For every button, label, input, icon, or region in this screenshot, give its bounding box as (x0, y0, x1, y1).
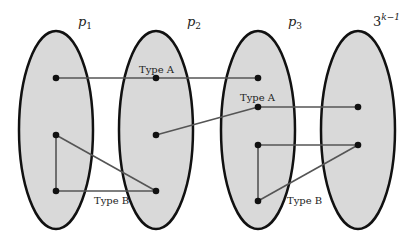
partition-label-p1: p1 (78, 14, 92, 31)
vertex (355, 142, 362, 149)
vertex (153, 132, 160, 139)
partition-label-p2: p2 (187, 14, 201, 31)
vertex (153, 188, 160, 195)
edge-label-type-b-2: Type B (287, 195, 322, 206)
vertex (255, 104, 262, 111)
edge-label-type-a-1: Type A (139, 64, 175, 75)
partition-diagram: p1 p2 p3 3k−1 Type A Type A Type B Type … (0, 0, 415, 244)
partition-label-p4: 3k−1 (373, 12, 400, 29)
vertex (53, 75, 60, 82)
vertex (53, 188, 60, 195)
partition-ellipse-p4 (321, 31, 395, 229)
vertex (355, 104, 362, 111)
partition-ellipse-p1 (19, 31, 93, 229)
vertex (255, 75, 262, 82)
vertex (255, 142, 262, 149)
edge-label-type-a-2: Type A (240, 92, 276, 103)
edge-label-type-b-1: Type B (94, 195, 129, 206)
partition-label-p3: p3 (288, 14, 302, 31)
vertex (255, 198, 262, 205)
vertex (153, 75, 160, 82)
partition-ellipse-p2 (119, 31, 193, 229)
vertex (53, 132, 60, 139)
